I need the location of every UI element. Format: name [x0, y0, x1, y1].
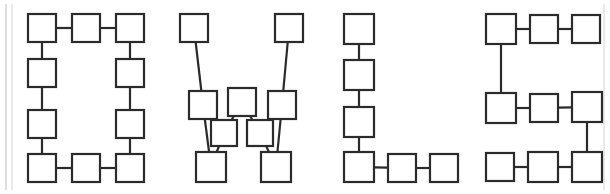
- node-w9[interactable]: [261, 152, 291, 182]
- node-w5[interactable]: [268, 91, 296, 119]
- node-o4[interactable]: [28, 59, 56, 87]
- node-s9[interactable]: [572, 152, 602, 182]
- edge-w5-w2: [283, 42, 287, 91]
- node-w3[interactable]: [189, 91, 217, 119]
- node-o3[interactable]: [116, 14, 144, 42]
- node-w7[interactable]: [247, 120, 273, 146]
- node-o1[interactable]: [28, 14, 56, 42]
- node-w4[interactable]: [228, 88, 256, 116]
- node-l1[interactable]: [344, 14, 374, 44]
- node-o2[interactable]: [72, 14, 100, 42]
- node-o9[interactable]: [72, 154, 100, 182]
- node-l5[interactable]: [388, 154, 416, 182]
- letter-group-s: [486, 14, 602, 182]
- node-s7[interactable]: [486, 153, 514, 181]
- node-s5[interactable]: [530, 94, 558, 122]
- node-s1[interactable]: [486, 14, 516, 44]
- edge-w3-w8: [205, 119, 209, 152]
- nodes-layer: [28, 14, 602, 182]
- owls-node-link-diagram: [0, 0, 610, 194]
- letter-group-l: [344, 14, 458, 182]
- node-l3[interactable]: [344, 107, 374, 137]
- node-w8[interactable]: [196, 152, 226, 182]
- node-o7[interactable]: [116, 110, 144, 138]
- edge-w1-w3: [196, 42, 202, 91]
- node-s3[interactable]: [572, 15, 600, 43]
- edge-w9-w5: [277, 119, 280, 152]
- node-o8[interactable]: [28, 154, 56, 182]
- node-w2[interactable]: [275, 14, 303, 42]
- node-l6[interactable]: [430, 154, 458, 182]
- letter-group-o: [28, 14, 144, 182]
- node-w1[interactable]: [180, 14, 208, 42]
- diagram-canvas: [0, 0, 610, 194]
- node-s4[interactable]: [486, 93, 516, 123]
- node-l4[interactable]: [344, 152, 374, 182]
- node-s8[interactable]: [528, 152, 558, 182]
- node-o6[interactable]: [28, 110, 56, 138]
- node-l2[interactable]: [344, 60, 374, 90]
- node-o10[interactable]: [116, 154, 144, 182]
- node-w6[interactable]: [211, 120, 237, 146]
- node-s6[interactable]: [572, 92, 602, 122]
- node-s2[interactable]: [530, 15, 558, 43]
- node-o5[interactable]: [116, 59, 144, 87]
- letter-group-w: [180, 14, 303, 182]
